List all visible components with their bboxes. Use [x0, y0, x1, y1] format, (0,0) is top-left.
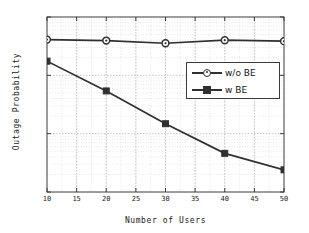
- x-tick-label: 10: [43, 195, 51, 203]
- x-tick-label: 40: [221, 195, 229, 203]
- x-axis-label: Number of Users: [47, 216, 284, 225]
- x-tick-label: 45: [250, 195, 258, 203]
- legend-label-1: w BE: [225, 85, 247, 95]
- legend-marker-circle-icon: [192, 67, 222, 79]
- x-tick-label: 35: [191, 195, 199, 203]
- legend-item-0: w/o BE: [187, 64, 281, 81]
- y-axis-label: Outage Probability: [12, 42, 21, 162]
- legend: w/o BE w BE: [186, 62, 280, 99]
- x-tick-label: 30: [161, 195, 169, 203]
- legend-marker-square-icon: [192, 84, 222, 96]
- x-tick-label: 25: [132, 195, 140, 203]
- x-tick-label: 15: [72, 195, 80, 203]
- legend-label-0: w/o BE: [225, 68, 256, 78]
- x-axis-ticks: 101520253035404550: [0, 0, 309, 233]
- x-tick-label: 50: [280, 195, 288, 203]
- legend-item-1: w BE: [187, 81, 281, 98]
- x-tick-label: 20: [102, 195, 110, 203]
- chart-figure: 10010-110-210-3 101520253035404550 Outag…: [0, 0, 309, 233]
